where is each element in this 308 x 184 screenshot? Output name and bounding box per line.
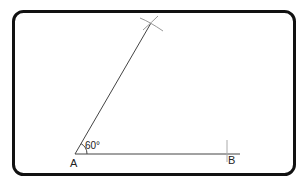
diagram-canvas: 60° A B (0, 0, 308, 184)
point-b-label: B (228, 154, 235, 166)
construction-arc-2 (143, 16, 158, 30)
point-a-label: A (70, 157, 78, 169)
angle-label: 60° (85, 140, 100, 151)
ray-60-degree (75, 23, 151, 154)
frame-border (14, 12, 295, 175)
